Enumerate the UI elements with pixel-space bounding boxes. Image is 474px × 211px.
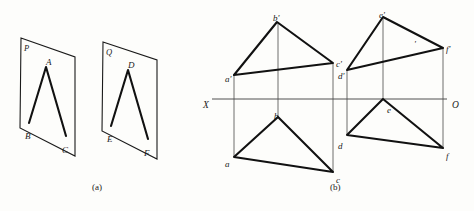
vertex-label-b: B [25,132,31,141]
vertex-label-a-prime: a' [225,75,231,84]
vertex-label-f: f [446,152,449,161]
top-view-triangle-abc [234,117,333,172]
vertex-label-e: E [107,135,113,144]
vertex-label-e: e [387,106,391,115]
plane-label-p: P [24,44,29,53]
top-view-triangle-def [347,99,443,148]
descriptive-geometry-figure: PQABCDEFXOa'b'c'abcd'e'f''def (a) (b) [0,0,474,211]
vertex-label-e-prime: e' [379,11,385,20]
caption-a: (a) [92,182,102,192]
triangle-def-spatial [111,70,148,139]
vertex-label-d: D [128,61,135,70]
vertex-label-f-prime: f' [446,45,450,54]
figure-canvas [0,0,474,211]
plane-label-q: Q [106,48,112,57]
vertex-label-a: a [225,160,230,169]
vertex-label-b-prime: b' [273,14,279,23]
projection-lines-def [347,17,443,148]
front-view-triangle-abc [234,22,333,75]
triangle-abc-spatial [29,67,66,136]
caption-b: (b) [330,182,341,192]
projection-lines-abc [234,22,333,172]
vertex-label-d: d [338,142,343,151]
vertex-label-b: b [274,112,279,121]
axis-label-o: O [452,101,459,111]
vertex-label-c-prime: c' [336,60,342,69]
vertex-label-f: F [144,149,150,158]
vertex-label-a: A [46,58,52,67]
vertex-label-c: C [62,146,68,155]
axis-label-x: X [203,101,209,111]
front-view-triangle-def [347,17,443,70]
vertex-label-d-prime: d' [338,72,344,81]
vertex-label--prime: ' [414,40,416,49]
